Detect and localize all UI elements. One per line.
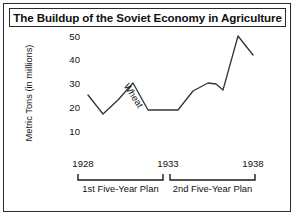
- plot-area: Metric Tons (in millions) 50 40 30 20 10…: [0, 0, 296, 217]
- bracket-first-plan: [78, 174, 163, 180]
- chart-screenshot: The Buildup of the Soviet Economy in Agr…: [0, 0, 296, 217]
- label-second-five-year-plan: 2nd Five-Year Plan: [170, 183, 255, 194]
- label-first-five-year-plan: 1st Five-Year Plan: [78, 183, 163, 194]
- bracket-second-plan: [170, 174, 255, 180]
